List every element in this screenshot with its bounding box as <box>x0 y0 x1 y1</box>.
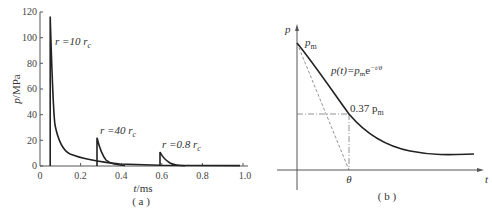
x-axis-label: t <box>485 173 489 185</box>
tangent-line <box>297 43 349 170</box>
y-axis-arrow-icon <box>295 24 299 31</box>
x-tick-label: 0.4 <box>115 170 128 181</box>
x-tick-label: 0.6 <box>156 170 169 181</box>
chart-a: 0 20 40 60 80 100 120 0 0.2 0.4 0.6 0.8 … <box>10 6 251 208</box>
x-axis-label: t/ms <box>134 182 153 194</box>
label-r40: r =40 rc <box>100 124 136 139</box>
theta-label: θ <box>346 173 352 185</box>
y-tick-label: 100 <box>22 32 37 43</box>
x-tick-label: 1.0 <box>239 170 252 181</box>
x-tick-label: 0.8 <box>196 170 209 181</box>
peak-label: pm <box>304 36 318 51</box>
x-tick-labels: 0 0.2 0.4 0.6 0.8 1.0 <box>38 170 252 181</box>
curve-r08 <box>160 152 185 166</box>
figure: 0 20 40 60 80 100 120 0 0.2 0.4 0.6 0.8 … <box>0 0 492 211</box>
chart-b: p t pm p(t)=pme−t/θ 0.37 pm θ ( b ) <box>277 23 489 203</box>
y-tick-label: 80 <box>27 58 37 69</box>
x-tick-label: 0.2 <box>74 170 87 181</box>
decay-curve <box>297 43 474 155</box>
y-tick-label: 0 <box>32 160 37 171</box>
level-label: 0.37 pm <box>350 102 385 117</box>
x-tick-label: 0 <box>38 170 43 181</box>
label-r10: r =10 rc <box>55 35 91 50</box>
y-tick-label: 120 <box>22 6 37 17</box>
y-axis-label: p/MPa <box>10 74 22 104</box>
label-r08: r =0.8 rc <box>162 138 201 153</box>
caption-b: ( b ) <box>378 190 397 203</box>
y-tick-label: 20 <box>27 135 37 146</box>
caption-a: ( a ) <box>132 195 150 208</box>
y-axis-label: p <box>284 23 291 35</box>
y-tick-labels: 0 20 40 60 80 100 120 <box>22 6 37 171</box>
y-tick-label: 40 <box>27 109 37 120</box>
formula-label: p(t)=pme−t/θ <box>330 64 383 78</box>
x-axis-arrow-icon <box>477 168 484 172</box>
y-tick-label: 60 <box>27 83 37 94</box>
